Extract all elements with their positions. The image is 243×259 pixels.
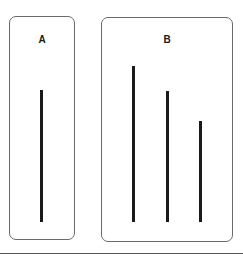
reference-line (40, 90, 43, 222)
bottom-divider (0, 253, 243, 254)
card-a-label: A (38, 34, 45, 45)
comparison-line-1 (132, 66, 135, 222)
card-b-label: B (163, 34, 170, 45)
comparison-line-3 (199, 121, 202, 222)
comparison-line-2 (166, 91, 169, 222)
